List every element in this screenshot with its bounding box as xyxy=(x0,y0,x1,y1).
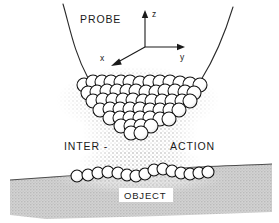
tip-atom-highlight xyxy=(129,96,133,99)
tip-atom-highlight xyxy=(136,79,140,82)
surface-atom-highlight xyxy=(114,170,118,173)
tip-atom-highlight xyxy=(148,97,152,100)
surface-atom-highlight xyxy=(204,169,208,172)
surface-atom-highlight xyxy=(104,169,108,172)
tip-atom-highlight xyxy=(89,78,93,81)
surface-atom-highlight xyxy=(150,167,154,170)
tip-atom-highlight xyxy=(106,105,110,108)
tip-atom-highlight xyxy=(186,97,190,100)
tip-atom-highlight xyxy=(181,88,185,91)
surface-atom-highlight xyxy=(168,168,172,171)
tip-atom-highlight xyxy=(146,106,150,109)
surface-atom-highlight xyxy=(159,166,163,169)
tip-atom-highlight xyxy=(89,97,93,100)
tip-atom-highlight xyxy=(168,97,172,100)
tip-atom-highlight xyxy=(166,78,170,81)
tip-atom-highlight xyxy=(119,96,123,99)
tip-atom-highlight xyxy=(127,122,131,125)
tip-atom-highlight xyxy=(117,78,121,81)
tip-atom-highlight xyxy=(136,105,140,108)
probe-object-diagram: z y x PROBE INTER - ACTION OBJECT xyxy=(0,0,279,223)
tip-atom-highlight xyxy=(136,114,140,117)
surface-atom-highlight xyxy=(94,170,98,173)
surface-atom-highlight xyxy=(84,172,88,175)
tip-atom-highlight xyxy=(137,129,141,132)
tip-atom-highlight xyxy=(166,106,170,109)
tip-atom-highlight xyxy=(156,78,160,81)
tip-atom-highlight xyxy=(98,78,102,81)
tip-atom-highlight xyxy=(116,114,120,117)
tip-atom-highlight xyxy=(113,87,117,90)
tip-atom-highlight xyxy=(137,122,141,125)
tip-atom-highlight xyxy=(147,122,151,125)
tip-atom-highlight xyxy=(126,78,130,81)
tip-atom-highlight xyxy=(146,78,150,81)
tip-atom-highlight xyxy=(127,129,131,132)
surface-atom-highlight xyxy=(177,170,181,173)
tip-atom-highlight xyxy=(165,115,169,118)
surface-atom-highlight xyxy=(141,171,145,174)
tip-atom-highlight xyxy=(117,122,121,125)
tip-atom-highlight xyxy=(186,80,190,83)
surface-atom-highlight xyxy=(73,173,77,176)
tip-atom xyxy=(162,112,176,126)
surface-atom-highlight xyxy=(123,172,127,175)
tip-atom-highlight xyxy=(109,96,113,99)
tip-atom-highlight xyxy=(106,114,110,117)
tip-atom-highlight xyxy=(99,96,103,99)
tip-atom-highlight xyxy=(116,105,120,108)
tip-atom-highlight xyxy=(175,106,179,109)
tip-atom-highlight xyxy=(176,79,180,82)
tip-atom-highlight xyxy=(152,88,156,91)
z-axis-label: z xyxy=(152,9,156,19)
tip-atom-highlight xyxy=(196,81,200,84)
probe-label: PROBE xyxy=(80,13,121,25)
surface-atom-highlight xyxy=(195,170,199,173)
tip-atom-highlight xyxy=(156,106,160,109)
tip-atom-highlight xyxy=(132,87,136,90)
tip-atom-highlight xyxy=(107,78,111,81)
surface-atom xyxy=(202,166,214,178)
tip-atom-highlight xyxy=(126,105,130,108)
tip-atom-highlight xyxy=(84,89,88,92)
tip-atom-highlight xyxy=(171,87,175,90)
object-label-group: OBJECT xyxy=(119,188,173,202)
interaction-label-right: ACTION xyxy=(170,140,215,152)
tip-atom-highlight xyxy=(139,97,143,100)
tip-atom-highlight xyxy=(142,88,146,91)
tip-atom-highlight xyxy=(156,115,160,118)
surface-atom xyxy=(71,170,83,182)
tip-atom-highlight xyxy=(80,81,84,84)
surface-atom-highlight xyxy=(186,171,190,174)
interaction-label-left: INTER - xyxy=(64,140,108,152)
tip-atom-highlight xyxy=(123,87,127,90)
tip-atom-highlight xyxy=(103,87,107,90)
figure-canvas: z y x PROBE INTER - ACTION OBJECT xyxy=(0,0,279,223)
tip-atom-highlight xyxy=(96,106,100,109)
tip-atom-highlight xyxy=(161,87,165,90)
tip-atom-highlight xyxy=(158,97,162,100)
object-label: OBJECT xyxy=(124,190,166,201)
tip-atom xyxy=(134,126,148,140)
tip-atom-highlight xyxy=(178,97,182,100)
surface-atom-highlight xyxy=(132,173,136,176)
tip-atom-highlight xyxy=(146,114,150,117)
tip-atom-highlight xyxy=(190,89,194,92)
tip-atom-highlight xyxy=(126,114,130,117)
tip-atom-highlight xyxy=(93,88,97,91)
